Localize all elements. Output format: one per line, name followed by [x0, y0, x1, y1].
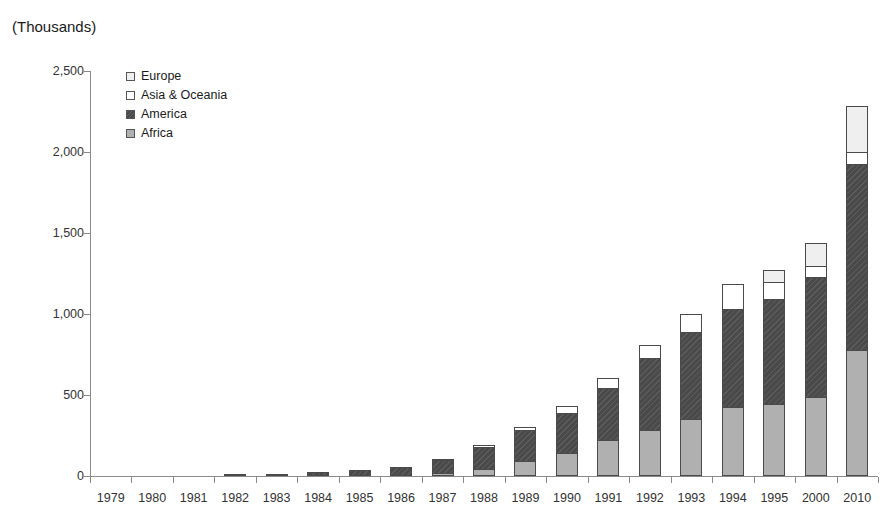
stacked-bar[interactable] [514, 425, 536, 476]
x-tick-label: 1992 [636, 491, 664, 505]
stacked-bar[interactable] [597, 376, 619, 476]
stacked-bar[interactable] [722, 282, 744, 476]
bar-segment-america [722, 309, 744, 408]
x-tick-label: 1981 [180, 491, 208, 505]
bar-segment-europe [805, 243, 827, 267]
bar-segment-africa [556, 453, 578, 476]
x-tick-mark [256, 477, 257, 483]
bar-segment-africa [680, 419, 702, 476]
bar-segment-america [556, 413, 578, 454]
x-tick-mark [90, 477, 91, 483]
x-tick-mark [380, 477, 381, 483]
legend-item-europe[interactable]: Europe [126, 70, 227, 82]
x-tick-label: 1993 [677, 491, 705, 505]
bar-segment-europe [846, 106, 868, 153]
bar-segment-america [514, 430, 536, 462]
bar-segment-africa [846, 350, 868, 476]
x-tick-mark [712, 477, 713, 483]
y-tick-label: 2,500 [32, 64, 84, 78]
x-tick-mark [422, 477, 423, 483]
x-tick-mark [671, 477, 672, 483]
x-tick-label: 2000 [802, 491, 830, 505]
legend-item-label: Africa [141, 127, 173, 139]
bar-segment-africa [473, 469, 495, 476]
legend-item-label: Asia & Oceania [141, 89, 227, 101]
x-tick-mark [131, 477, 132, 483]
y-tick-mark [84, 152, 91, 153]
y-axis-tick-labels: 05001,0001,5002,0002,500 [28, 0, 84, 526]
bar-segment-africa [432, 473, 454, 476]
y-tick-mark [84, 314, 91, 315]
bar-segment-asia-oceania [722, 284, 744, 311]
stacked-bar[interactable] [846, 103, 868, 476]
x-tick-mark [173, 477, 174, 483]
x-tick-mark [546, 477, 547, 483]
x-tick-label: 1991 [595, 491, 623, 505]
y-tick-label: 2,000 [32, 145, 84, 159]
x-tick-label: 1995 [760, 491, 788, 505]
legend-swatch-africa-icon [126, 129, 135, 138]
bar-segment-america [390, 467, 412, 476]
x-tick-label: 1985 [346, 491, 374, 505]
x-axis-line [90, 476, 878, 477]
x-tick-label: 1979 [97, 491, 125, 505]
stacked-bar[interactable] [224, 474, 246, 476]
x-tick-mark [505, 477, 506, 483]
x-tick-mark [214, 477, 215, 483]
stacked-bar[interactable] [432, 457, 454, 476]
stacked-bar[interactable] [763, 267, 785, 476]
y-tick-mark [84, 71, 91, 72]
x-axis-tick-labels: 1979198019811982198319841985198619871988… [90, 491, 878, 513]
stacked-bar[interactable] [473, 443, 495, 476]
stacked-bar[interactable] [266, 474, 288, 476]
y-tick-label: 1,000 [32, 307, 84, 321]
bar-segment-africa [722, 407, 744, 476]
bar-segment-america [349, 470, 371, 476]
bar-segment-asia-oceania [763, 282, 785, 300]
legend-item-label: America [141, 108, 187, 120]
bar-segment-america [846, 164, 868, 351]
legend-item-label: Europe [141, 70, 181, 82]
legend-swatch-america-icon [126, 110, 135, 119]
legend-item-america[interactable]: America [126, 108, 227, 120]
stacked-bar[interactable] [556, 404, 578, 476]
stacked-bar[interactable] [307, 472, 329, 476]
x-tick-mark [754, 477, 755, 483]
bar-segment-america [266, 474, 288, 476]
y-tick-label: 0 [32, 469, 84, 483]
stacked-bar[interactable] [349, 470, 371, 476]
bar-segment-asia-oceania [680, 314, 702, 333]
stacked-bar[interactable] [390, 467, 412, 476]
x-tick-label: 1988 [470, 491, 498, 505]
x-tick-label: 1984 [304, 491, 332, 505]
x-tick-mark [297, 477, 298, 483]
x-tick-label: 1983 [263, 491, 291, 505]
x-tick-mark [339, 477, 340, 483]
legend-swatch-europe-icon [126, 72, 135, 81]
x-tick-label: 1986 [387, 491, 415, 505]
stacked-bar[interactable] [805, 239, 827, 476]
bar-segment-america [224, 474, 246, 476]
legend-item-africa[interactable]: Africa [126, 127, 227, 139]
bar-segment-america [597, 388, 619, 441]
bar-segment-america [763, 299, 785, 405]
x-tick-label: 1980 [138, 491, 166, 505]
x-tick-mark [878, 477, 879, 483]
legend-swatch-asia-icon [126, 91, 135, 100]
y-tick-label: 1,500 [32, 226, 84, 240]
x-tick-mark [629, 477, 630, 483]
x-tick-label: 2010 [843, 491, 871, 505]
stacked-bar[interactable] [639, 343, 661, 476]
legend-item-asia[interactable]: Asia & Oceania [126, 89, 227, 101]
bar-segment-america [432, 460, 454, 474]
x-tick-label: 1987 [429, 491, 457, 505]
x-tick-mark [588, 477, 589, 483]
bar-segment-africa [597, 440, 619, 476]
stacked-bar[interactable] [680, 312, 702, 476]
x-tick-mark [795, 477, 796, 483]
bar-segment-asia-oceania [639, 345, 661, 359]
y-tick-mark [84, 395, 91, 396]
bar-segment-africa [763, 404, 785, 476]
x-tick-label: 1989 [512, 491, 540, 505]
bar-segment-america [307, 472, 329, 476]
